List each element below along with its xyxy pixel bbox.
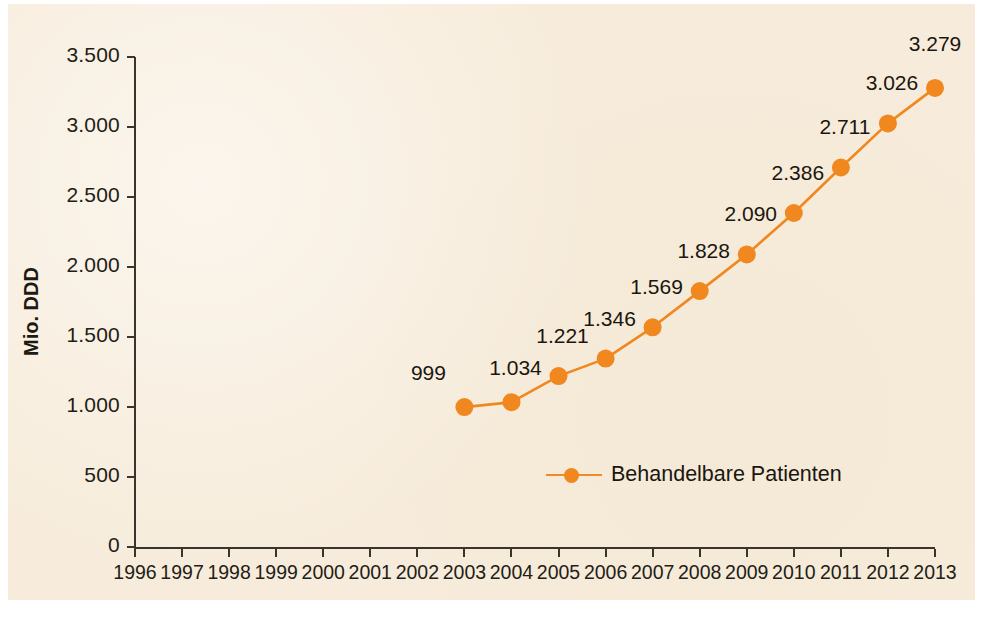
data-point-marker bbox=[597, 350, 615, 368]
chart-figure: Mio. DDD 05001.0001.5002.0002.5003.0003.… bbox=[0, 0, 1005, 628]
legend-marker-icon bbox=[546, 466, 602, 484]
data-point-label: 1.346 bbox=[570, 307, 650, 331]
data-point-marker bbox=[503, 393, 521, 411]
data-point-label: 1.828 bbox=[664, 239, 744, 263]
data-point-label: 3.279 bbox=[895, 32, 975, 56]
data-point-label: 2.711 bbox=[805, 115, 885, 139]
legend-label-behandelbare-patienten: Behandelbare Patienten bbox=[611, 462, 842, 487]
data-point-label: 1.034 bbox=[475, 356, 555, 380]
data-point-label: 1.569 bbox=[617, 275, 697, 299]
data-point-label: 2.386 bbox=[758, 161, 838, 185]
data-point-marker bbox=[455, 398, 473, 416]
data-point-label: 999 bbox=[388, 361, 468, 385]
plot-area: Mio. DDD 05001.0001.5002.0002.5003.0003.… bbox=[0, 0, 1005, 628]
chart-legend: Behandelbare Patienten bbox=[546, 462, 842, 487]
data-point-label: 2.090 bbox=[711, 202, 791, 226]
data-point-label: 3.026 bbox=[852, 71, 932, 95]
